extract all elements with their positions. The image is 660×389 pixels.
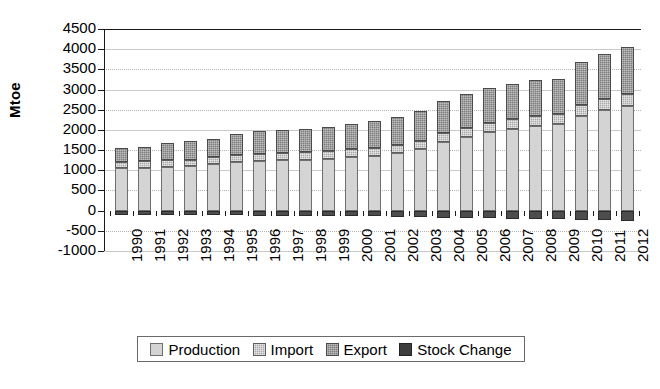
bar-segment-import[interactable] bbox=[161, 160, 174, 167]
bar-segment-import[interactable] bbox=[345, 149, 358, 157]
bar-group[interactable] bbox=[345, 29, 358, 251]
bar-segment-import[interactable] bbox=[138, 161, 151, 167]
bar-segment-export[interactable] bbox=[483, 88, 496, 122]
bar-segment-stock[interactable] bbox=[138, 211, 151, 215]
bar-segment-stock[interactable] bbox=[161, 211, 174, 215]
bar-segment-production[interactable] bbox=[115, 168, 128, 210]
legend-item-export[interactable]: Export bbox=[326, 341, 387, 358]
bar-group[interactable] bbox=[506, 29, 519, 251]
bar-segment-export[interactable] bbox=[322, 127, 335, 151]
bar-segment-import[interactable] bbox=[184, 160, 197, 167]
bar-group[interactable] bbox=[230, 29, 243, 251]
bar-group[interactable] bbox=[207, 29, 220, 251]
bar-group[interactable] bbox=[161, 29, 174, 251]
bar-segment-production[interactable] bbox=[483, 132, 496, 211]
bar-segment-import[interactable] bbox=[460, 128, 473, 137]
bar-segment-production[interactable] bbox=[552, 124, 565, 211]
bar-group[interactable] bbox=[460, 29, 473, 251]
bar-segment-production[interactable] bbox=[184, 166, 197, 210]
bar-segment-stock[interactable] bbox=[529, 211, 542, 219]
bar-group[interactable] bbox=[368, 29, 381, 251]
legend-item-stock[interactable]: Stock Change bbox=[399, 341, 511, 358]
legend-item-import[interactable]: Import bbox=[253, 341, 314, 358]
bar-segment-stock[interactable] bbox=[598, 211, 611, 220]
bar-segment-import[interactable] bbox=[391, 145, 404, 153]
bar-segment-production[interactable] bbox=[299, 160, 312, 211]
bar-segment-import[interactable] bbox=[276, 153, 289, 160]
bar-segment-stock[interactable] bbox=[437, 211, 450, 218]
bar-segment-stock[interactable] bbox=[506, 211, 519, 219]
bar-segment-stock[interactable] bbox=[345, 211, 358, 217]
bar-group[interactable] bbox=[276, 29, 289, 251]
bar-segment-export[interactable] bbox=[460, 94, 473, 128]
bar-segment-export[interactable] bbox=[506, 84, 519, 119]
bar-segment-production[interactable] bbox=[161, 167, 174, 211]
bar-segment-export[interactable] bbox=[621, 47, 634, 94]
bar-segment-export[interactable] bbox=[253, 131, 266, 154]
bar-segment-export[interactable] bbox=[161, 143, 174, 160]
bar-group[interactable] bbox=[598, 29, 611, 251]
bar-group[interactable] bbox=[414, 29, 427, 251]
bar-segment-import[interactable] bbox=[299, 152, 312, 159]
bar-segment-export[interactable] bbox=[276, 130, 289, 153]
bar-group[interactable] bbox=[483, 29, 496, 251]
bar-group[interactable] bbox=[437, 29, 450, 251]
bar-segment-import[interactable] bbox=[483, 123, 496, 132]
bar-segment-import[interactable] bbox=[115, 162, 128, 168]
bar-segment-export[interactable] bbox=[115, 148, 128, 162]
bar-segment-production[interactable] bbox=[230, 162, 243, 210]
bar-segment-production[interactable] bbox=[253, 161, 266, 211]
bar-segment-export[interactable] bbox=[299, 129, 312, 152]
bar-segment-import[interactable] bbox=[598, 99, 611, 110]
bar-group[interactable] bbox=[253, 29, 266, 251]
bar-group[interactable] bbox=[391, 29, 404, 251]
bar-segment-import[interactable] bbox=[207, 157, 220, 164]
bar-group[interactable] bbox=[184, 29, 197, 251]
bar-group[interactable] bbox=[115, 29, 128, 251]
bar-segment-stock[interactable] bbox=[253, 211, 266, 216]
bar-segment-stock[interactable] bbox=[368, 211, 381, 217]
bar-segment-stock[interactable] bbox=[391, 211, 404, 217]
bar-segment-import[interactable] bbox=[230, 155, 243, 162]
bar-segment-import[interactable] bbox=[575, 105, 588, 115]
bar-segment-export[interactable] bbox=[552, 79, 565, 114]
bar-segment-production[interactable] bbox=[437, 142, 450, 211]
bar-segment-production[interactable] bbox=[138, 168, 151, 211]
bar-segment-stock[interactable] bbox=[299, 211, 312, 216]
bar-segment-production[interactable] bbox=[529, 126, 542, 211]
bar-segment-stock[interactable] bbox=[552, 211, 565, 219]
bar-group[interactable] bbox=[552, 29, 565, 251]
bar-segment-production[interactable] bbox=[391, 153, 404, 210]
bar-segment-production[interactable] bbox=[345, 157, 358, 211]
bar-segment-export[interactable] bbox=[575, 62, 588, 105]
bar-group[interactable] bbox=[575, 29, 588, 251]
bar-segment-export[interactable] bbox=[598, 54, 611, 99]
bar-segment-export[interactable] bbox=[529, 80, 542, 116]
bar-segment-import[interactable] bbox=[552, 114, 565, 124]
bar-segment-production[interactable] bbox=[322, 159, 335, 211]
bar-segment-stock[interactable] bbox=[276, 211, 289, 216]
bar-segment-production[interactable] bbox=[506, 129, 519, 211]
bar-segment-export[interactable] bbox=[437, 101, 450, 133]
bar-segment-production[interactable] bbox=[414, 149, 427, 210]
bar-segment-import[interactable] bbox=[253, 154, 266, 161]
bar-segment-export[interactable] bbox=[345, 124, 358, 149]
bar-group[interactable] bbox=[621, 29, 634, 251]
bar-segment-production[interactable] bbox=[460, 137, 473, 211]
bar-segment-stock[interactable] bbox=[414, 211, 427, 217]
bar-segment-production[interactable] bbox=[598, 110, 611, 211]
bar-segment-export[interactable] bbox=[368, 121, 381, 148]
bar-segment-stock[interactable] bbox=[460, 211, 473, 218]
bar-segment-import[interactable] bbox=[529, 116, 542, 126]
bar-segment-import[interactable] bbox=[621, 94, 634, 105]
bar-segment-stock[interactable] bbox=[184, 211, 197, 216]
bar-group[interactable] bbox=[138, 29, 151, 251]
bar-segment-production[interactable] bbox=[276, 160, 289, 210]
bar-segment-production[interactable] bbox=[368, 156, 381, 211]
bar-segment-stock[interactable] bbox=[575, 211, 588, 220]
bar-segment-import[interactable] bbox=[437, 133, 450, 142]
bar-segment-import[interactable] bbox=[506, 119, 519, 129]
bar-segment-production[interactable] bbox=[207, 164, 220, 210]
bar-segment-import[interactable] bbox=[414, 141, 427, 149]
bar-segment-stock[interactable] bbox=[115, 211, 128, 215]
